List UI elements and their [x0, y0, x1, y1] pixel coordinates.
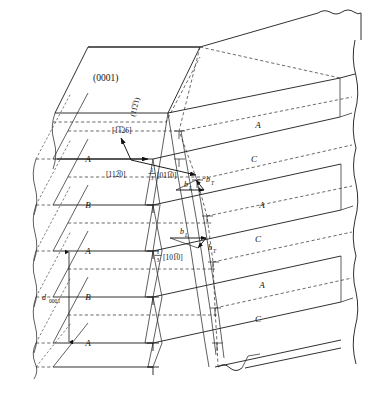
left-torn-edges-group	[33, 113, 56, 379]
right-face-step-0	[340, 113, 352, 117]
upper-face-right-step	[340, 74, 355, 78]
burgers-label-bL-upper-group: b L	[184, 180, 192, 191]
top-slab-right-edge	[168, 47, 200, 113]
dislocation-mark	[147, 297, 159, 305]
wall-kink-1	[145, 159, 153, 205]
stacking-label-right: A	[258, 280, 265, 290]
left-torn-edge-3	[33, 205, 37, 261]
wall-kink-2	[145, 205, 153, 251]
left-torn-edge-6	[33, 343, 37, 379]
fault-plane-back-trace	[179, 47, 218, 367]
inclined-fault-plane-group	[168, 47, 260, 371]
upper-face-top-left-edge	[200, 13, 318, 47]
right-face-edge-A0	[168, 78, 340, 113]
right-face-edge-C2	[153, 302, 341, 343]
burgers-bT-upper-subscript: T	[211, 180, 215, 186]
burgers-bT-lower-base: b	[208, 243, 212, 252]
top-slab-left-edge	[55, 47, 200, 113]
stacking-label-left: A	[84, 338, 91, 348]
line-direction-label: [1̅1̅26]	[112, 126, 131, 135]
right-face-step-1	[341, 206, 353, 210]
slab-side-A3-hidden	[36, 277, 71, 343]
direction-vectors-group	[57, 138, 196, 175]
dislocation-mark	[174, 131, 185, 139]
vector-1126-arrow	[121, 138, 131, 160]
partial-vector-bottom-group: 1 3 [101̅0]	[155, 249, 183, 263]
fraction-numerator-bottom: 1	[157, 249, 160, 255]
front-dislocation-wall-group	[145, 113, 168, 367]
basal-slab-stack-group	[36, 57, 217, 367]
slab-side-bottom	[53, 323, 88, 367]
basal-plane-label: (0001)	[93, 73, 118, 84]
slab-side-bottom-hidden	[36, 323, 71, 367]
burgers-bL-lower-subscript: L	[184, 232, 188, 238]
dislocation-mark	[147, 367, 159, 375]
left-torn-edge-4	[33, 251, 37, 307]
stacking-label-left: A	[84, 154, 91, 164]
right-face-hidden-C1	[207, 186, 352, 216]
d0001-subscript-label: 0001	[49, 298, 60, 304]
d0001-label-group: d 0001	[42, 293, 60, 304]
right-face-edge-A2	[153, 256, 341, 297]
stacking-label-left: A	[84, 246, 91, 256]
fraction-denominator-top: 3	[151, 175, 154, 181]
left-torn-edge-2	[33, 159, 37, 215]
upper-right-face-group	[200, 10, 361, 364]
crystallography-figure: (0001) (11̅2̅1) [1̅1̅26] [112̅0] A B A B…	[0, 0, 365, 394]
slab-hidden-edge-a0	[53, 57, 200, 122]
stacking-label-right: C	[255, 234, 262, 244]
left-torn-edge-1	[52, 113, 56, 169]
wall-kink-3	[145, 251, 153, 297]
right-face-hidden-A2	[213, 232, 352, 262]
right-torn-edge-upper	[353, 40, 358, 148]
dislocation-mark	[147, 343, 159, 351]
torn-top-edge	[318, 10, 361, 14]
burgers-bL-lower-base: b	[180, 227, 184, 236]
wall-kink-5	[148, 343, 153, 367]
burgers-bL-upper-subscript: L	[188, 185, 192, 191]
wall-slant-5	[153, 297, 162, 367]
right-face-hidden-C2	[215, 278, 352, 308]
right-face-edge-bottom	[215, 340, 341, 367]
dislocation-mark	[147, 205, 159, 213]
right-face-edge-A1	[153, 164, 341, 205]
burgers-bT-upper-base: b	[206, 175, 210, 184]
stacking-label-left: B	[85, 292, 91, 302]
d0001-base-label: d	[42, 293, 47, 302]
stacking-label-right: A	[254, 120, 261, 130]
stacking-label-right: C	[255, 314, 262, 324]
burgers-bL-upper-base: b	[184, 180, 188, 189]
right-torn-edge-middle	[353, 148, 358, 256]
upper-face-hidden-diagonal	[200, 47, 340, 78]
right-face-edge-bottom-2	[245, 348, 341, 368]
wall-kink-4	[145, 297, 153, 343]
diagram-canvas: (0001) (11̅2̅1) [1̅1̅26] [112̅0] A B A B…	[0, 0, 365, 394]
partial-vector-top-label: [011̅0]	[157, 171, 176, 180]
inclined-plane-label: (11̅2̅1)	[128, 96, 142, 118]
right-face-step-2	[341, 298, 353, 302]
right-face-hidden-A1	[197, 145, 352, 180]
right-torn-edge-lower	[353, 256, 358, 364]
slip-direction-label: [112̅0]	[106, 170, 125, 179]
stacking-label-right: C	[251, 154, 258, 164]
right-face-hidden-A0	[181, 97, 352, 131]
burgers-bT-lower-subscript: T	[213, 248, 217, 254]
wall-slant-1	[153, 113, 168, 205]
fraction-denominator-bottom: 3	[157, 257, 160, 263]
stacking-label-left: B	[85, 200, 91, 210]
fraction-numerator-top: 1	[151, 167, 154, 173]
stacking-label-right: A	[258, 200, 265, 210]
partial-vector-bottom-label: [101̅0]	[163, 253, 183, 262]
top-basal-plane-group	[55, 47, 200, 113]
